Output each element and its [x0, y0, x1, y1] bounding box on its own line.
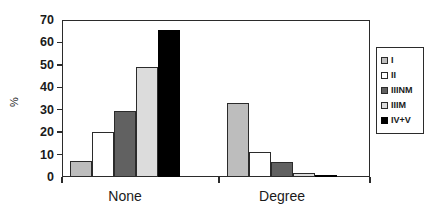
y-axis-tick-label: 40	[20, 82, 54, 92]
plot-area	[62, 20, 370, 177]
y-axis-tick-label: 50	[20, 60, 54, 70]
y-axis-tick-label: 10	[20, 150, 54, 160]
legend-item-ii[interactable]: II	[381, 68, 423, 83]
bar-degree-iiim	[293, 173, 315, 177]
legend-item-iiim[interactable]: IIIM	[381, 98, 423, 113]
y-axis-title: %	[8, 90, 20, 114]
bar-degree-ivplusv	[315, 175, 337, 177]
x-axis-tick-mark	[369, 177, 370, 183]
legend-item-ivplusv[interactable]: IV+V	[381, 113, 423, 128]
y-axis-tick-label: 20	[20, 127, 54, 137]
x-axis-label-none: None	[80, 188, 170, 204]
y-axis-tick-label: 0	[20, 172, 54, 182]
x-axis-tick-mark	[218, 177, 219, 183]
x-axis-label-degree: Degree	[237, 188, 327, 204]
legend-box: IIIIIINMIIIMIV+V	[376, 47, 424, 134]
legend-item-label: IIINM	[391, 86, 413, 95]
bar-none-i	[70, 161, 92, 177]
legend-item-label: IIIM	[391, 101, 406, 110]
bar-degree-i	[227, 103, 249, 177]
y-axis-tick-label: 30	[20, 105, 54, 115]
y-axis-tick-label: 70	[20, 15, 54, 25]
x-axis-tick-mark	[61, 177, 62, 183]
bar-none-iiim	[136, 67, 158, 177]
legend-swatch-icon	[381, 57, 388, 64]
bar-none-ii	[92, 132, 114, 177]
bar-none-ivplusv	[158, 30, 180, 177]
bar-none-iiinm	[114, 111, 136, 177]
y-axis-tick-label: 60	[20, 37, 54, 47]
bar-degree-ii	[249, 152, 271, 177]
legend-item-label: II	[391, 71, 396, 80]
legend-swatch-icon	[381, 87, 388, 94]
legend-item-i[interactable]: I	[381, 53, 423, 68]
legend-item-iiinm[interactable]: IIINM	[381, 83, 423, 98]
legend-swatch-icon	[381, 102, 388, 109]
bar-chart-figure: % 010203040506070 NoneDegree IIIIIINMIII…	[0, 0, 438, 223]
legend-swatch-icon	[381, 72, 388, 79]
bar-degree-iiinm	[271, 162, 293, 177]
legend-swatch-icon	[381, 117, 388, 124]
legend-item-label: IV+V	[391, 116, 411, 125]
legend-item-label: I	[391, 56, 394, 65]
